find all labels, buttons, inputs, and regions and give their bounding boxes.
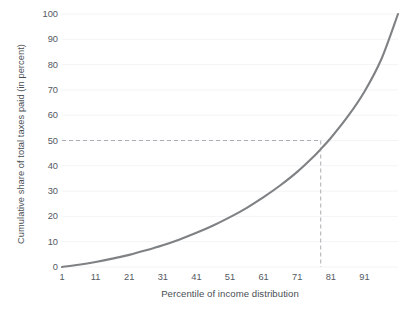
reference-lines: [62, 141, 321, 268]
x-axis-title: Percentile of income distribution: [62, 288, 398, 299]
plot-area: [0, 0, 416, 320]
chart-figure: Cumulative share of total taxes paid (in…: [0, 0, 416, 320]
